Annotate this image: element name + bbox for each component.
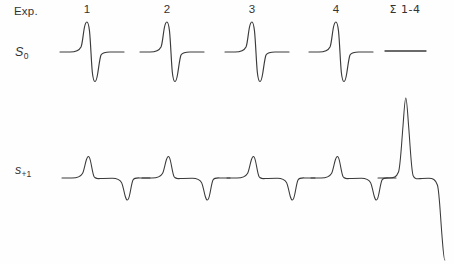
spectra-traces: [0, 0, 454, 264]
trace-s0-exp1: [60, 22, 124, 82]
trace-s0-exp3: [225, 22, 289, 82]
trace-sp1-exp1: [62, 157, 150, 201]
trace-s0-exp4: [309, 22, 373, 82]
spectra-figure: Exp. 1 2 3 4 Σ 1-4 S0 s+1: [0, 0, 454, 264]
trace-sp1-exp3: [227, 157, 315, 201]
trace-sp1-sum: [378, 98, 445, 260]
trace-sp1-exp2: [142, 157, 230, 201]
trace-s0-exp2: [140, 22, 204, 82]
